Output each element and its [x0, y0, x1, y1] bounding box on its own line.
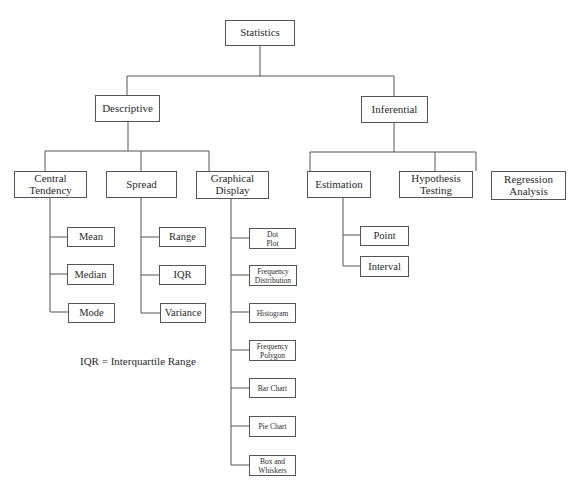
node-box-and-whiskers: Box and Whiskers — [249, 455, 296, 476]
node-statistics: Statistics — [225, 20, 295, 46]
node-hypothesis-testing: Hypothesis Testing — [399, 171, 473, 198]
node-median: Median — [67, 264, 114, 285]
iqr-footnote: IQR = Interquartile Range — [80, 355, 196, 367]
node-mean: Mean — [67, 227, 115, 247]
node-estimation: Estimation — [307, 171, 371, 198]
node-spread: Spread — [106, 171, 177, 198]
node-regression-analysis: Regression Analysis — [491, 171, 566, 200]
node-dot-plot: Dot Plot — [249, 228, 296, 249]
node-pie-chart: Pie Chart — [249, 416, 296, 437]
node-point: Point — [360, 226, 409, 246]
node-variance: Variance — [160, 303, 206, 323]
node-histogram: Histogram — [249, 303, 296, 323]
node-interval: Interval — [360, 256, 409, 277]
node-mode: Mode — [68, 303, 115, 323]
node-iqr: IQR — [159, 265, 206, 285]
node-inferential: Inferential — [361, 96, 428, 123]
node-range: Range — [159, 227, 206, 247]
node-graphical-display: Graphical Display — [196, 171, 269, 199]
node-descriptive: Descriptive — [95, 95, 160, 122]
node-frequency-distribution: Frequency Distribution — [249, 265, 297, 286]
node-frequency-polygon: Frequency Polygon — [249, 340, 296, 361]
node-central-tendency: Central Tendency — [14, 171, 87, 198]
node-bar-chart: Bar Chart — [249, 378, 296, 398]
